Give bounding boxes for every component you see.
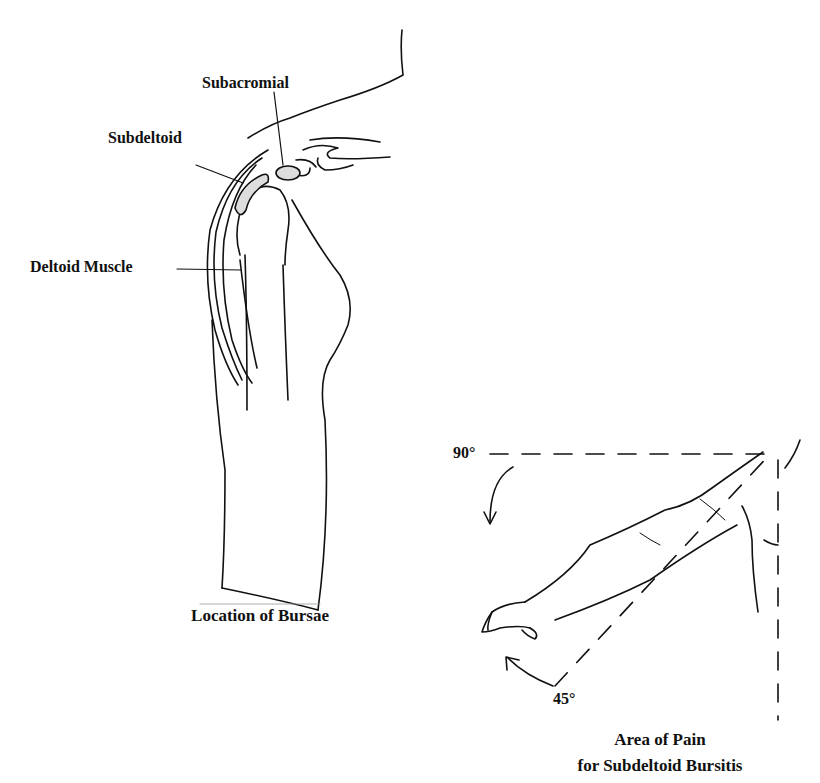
anatomy-diagram xyxy=(0,0,820,783)
left-figure-caption: Location of Bursae xyxy=(150,606,370,626)
arm-abduction-illustration xyxy=(482,440,800,720)
subacromial-label: Subacromial xyxy=(202,74,289,92)
right-figure-caption-line2: for Subdeltoid Bursitis xyxy=(540,756,780,776)
right-figure-caption-line1: Area of Pain xyxy=(560,730,760,750)
angle-90-label: 90° xyxy=(453,444,475,462)
deltoid-muscle-label: Deltoid Muscle xyxy=(30,258,133,276)
angle-45-label: 45° xyxy=(553,690,575,708)
shoulder-illustration xyxy=(177,30,403,610)
subdeltoid-label: Subdeltoid xyxy=(108,129,182,147)
